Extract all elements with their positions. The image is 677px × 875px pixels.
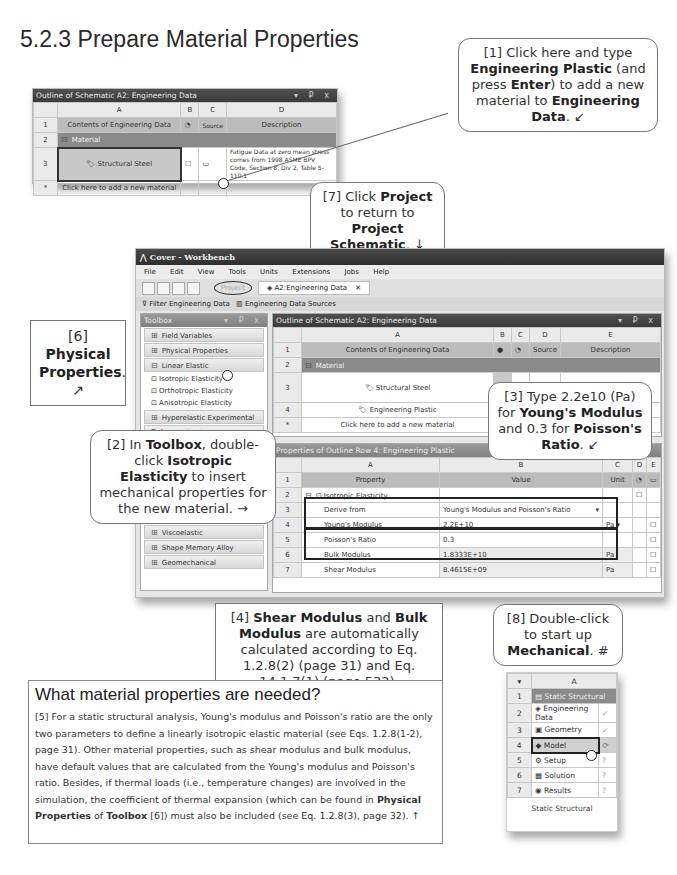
menu-units[interactable]: Units	[260, 268, 278, 276]
e-header-icon: ▭	[647, 473, 661, 488]
menu-bar: File Edit View Tools Units Extensions Jo…	[136, 265, 664, 279]
col-header	[34, 103, 58, 118]
status-icon: ⟳	[599, 738, 617, 753]
row-number: 1	[34, 118, 58, 133]
panel-controls[interactable]: ▾ ₽ x	[618, 314, 657, 327]
top-outline-table: A B C D 1 Contents of Engineering Data ◔…	[33, 102, 337, 196]
toolbox-group-physical-properties[interactable]: ⊞Physical Properties	[144, 343, 264, 357]
save-as-icon[interactable]	[187, 282, 200, 295]
material-icon: 🏷	[86, 160, 97, 168]
panel-controls[interactable]: ▾ ₽ x	[294, 89, 333, 102]
static-structural-system: ▾A 1▤ Static Structural 2◈ Engineering D…	[506, 672, 618, 832]
note-body: [5] For a static structural analysis, Yo…	[35, 709, 436, 825]
top-outline-title: Outline of Schematic A2: Engineering Dat…	[36, 91, 197, 100]
checkbox[interactable]: ☐	[647, 563, 661, 578]
cell-engineering-data[interactable]: ◈ Engineering Data	[532, 704, 599, 723]
property-header: Property	[302, 473, 440, 488]
toolbox-group-viscoelastic[interactable]: ⊞Viscoelastic	[144, 525, 264, 539]
toolbox-group-linear-elastic[interactable]: ⊟Linear Elastic	[144, 358, 264, 372]
add-material-input[interactable]: Click here to add a new material	[58, 181, 181, 196]
cell-geometry[interactable]: ▣ Geometry	[532, 723, 599, 738]
tab-project[interactable]: Project	[214, 281, 252, 295]
description-header: Description	[227, 118, 337, 133]
checkbox[interactable]: ☐	[633, 488, 647, 503]
section-title: 5.2.3 Prepare Material Properties	[20, 26, 359, 53]
system-menu-icon[interactable]: ▾	[508, 674, 532, 689]
value-header: Value	[440, 473, 603, 488]
menu-edit[interactable]: Edit	[170, 268, 184, 276]
source-header: Source	[529, 343, 560, 358]
menu-view[interactable]: View	[198, 268, 215, 276]
toolbox-group-field-variables[interactable]: ⊞Field Variables	[144, 328, 264, 342]
system-title[interactable]: ▤ Static Structural	[532, 689, 617, 704]
sources-icon: ▥	[236, 300, 245, 308]
system-caption[interactable]: Static Structural	[507, 804, 617, 813]
toolbox-item-anisotropic-elasticity[interactable]: ⊡ Anisotropic Elasticity	[141, 397, 267, 409]
contents-header: Contents of Engineering Data	[302, 343, 494, 358]
save-icon[interactable]	[172, 282, 185, 295]
unit-header: Unit	[603, 473, 633, 488]
model-icon: ◆	[536, 741, 544, 750]
cell-results[interactable]: ◉ Results	[532, 783, 599, 798]
property-label: Shear Modulus	[302, 563, 440, 578]
toolbox-group-geomechanical[interactable]: ⊞Geomechanical	[144, 555, 264, 569]
checkbox[interactable]: ☐	[181, 148, 199, 181]
material-group[interactable]: ⊟Material	[302, 358, 661, 373]
checkbox[interactable]: ☐	[647, 533, 661, 548]
col-header: C	[199, 103, 227, 118]
shear-modulus-value: 8.4615E+09	[440, 563, 603, 578]
row-number: 3	[34, 148, 58, 181]
filter-engineering-data-button[interactable]: ⊽ Filter Engineering Data	[142, 300, 230, 308]
checkbox[interactable]: ☐	[647, 518, 661, 533]
add-material-input[interactable]: Click here to add a new material	[302, 418, 494, 433]
description-header: Description	[561, 343, 661, 358]
close-tab-icon[interactable]: ✕	[355, 284, 361, 292]
b-header-icon: ●	[493, 343, 511, 358]
click-marker	[586, 750, 597, 761]
callout-8: [8] Double-click to start up Mechanical.…	[493, 604, 623, 666]
material-group[interactable]: ⊟Material	[58, 133, 337, 148]
top-outline-title-bar: Outline of Schematic A2: Engineering Dat…	[33, 89, 337, 102]
top-outline-panel: Outline of Schematic A2: Engineering Dat…	[32, 88, 338, 184]
cell-solution[interactable]: ▦ Solution	[532, 768, 599, 783]
new-icon[interactable]	[142, 282, 155, 295]
toolbox-group-hyperelastic-experimental-data[interactable]: ⊞Hyperelastic Experimental Data	[144, 410, 264, 424]
elasticity-icon: ⊡	[151, 399, 159, 407]
b-header: ◔	[181, 118, 199, 133]
row-number: 2	[34, 133, 58, 148]
menu-extensions[interactable]: Extensions	[292, 268, 330, 276]
col-header: A	[58, 103, 181, 118]
callout-1: [1] Click here and type Engineering Plas…	[458, 38, 658, 132]
structural-steel-row[interactable]: 🏷 Structural Steel	[302, 373, 494, 403]
highlight-calculated-rows	[304, 528, 618, 560]
status-icon: ?	[599, 783, 617, 798]
engineering-data-icon: ◈	[535, 704, 543, 713]
results-icon: ◉	[535, 786, 544, 795]
engineering-plastic-row[interactable]: 🏷 Engineering Plastic	[302, 403, 494, 418]
tab-toolbar: Project ◈ A2:Engineering Data ✕	[136, 279, 664, 297]
open-icon[interactable]	[157, 282, 170, 295]
checkbox[interactable]: ☐	[647, 548, 661, 563]
structural-steel-cell[interactable]: 🏷 Structural Steel	[58, 148, 181, 181]
toolbox-item-isotropic-elasticity[interactable]: ⊡ Isotropic Elasticity	[141, 373, 267, 385]
menu-help[interactable]: Help	[373, 268, 389, 276]
highlight-input-rows	[304, 497, 618, 529]
tab-engineering-data[interactable]: ◈ A2:Engineering Data ✕	[258, 281, 370, 295]
outline-title-bar: Outline of Schematic A2: Engineering Dat…	[273, 314, 661, 327]
source-header: Source	[199, 118, 227, 133]
contents-header: Contents of Engineering Data	[58, 118, 181, 133]
ansys-logo-icon: ⋀	[140, 252, 150, 262]
toolbox-title-bar: Toolbox▾ ₽ x	[141, 314, 267, 327]
source-icon: ▭	[199, 148, 227, 181]
toolbox-item-orthotropic-elasticity[interactable]: ⊡ Orthotropic Elasticity	[141, 385, 267, 397]
material-icon: 🏷	[365, 384, 376, 392]
callout-2: [2] In Toolbox, double-click Isotropic E…	[90, 430, 276, 524]
callout-3: [3] Type 2.2e10 (Pa) for Young's Modulus…	[488, 382, 652, 460]
material-icon: 🏷	[358, 406, 369, 414]
menu-file[interactable]: File	[144, 268, 156, 276]
panel-controls[interactable]: ▾ ₽ x	[224, 314, 263, 327]
engineering-data-sources-button[interactable]: ▥ Engineering Data Sources	[236, 300, 336, 308]
menu-tools[interactable]: Tools	[229, 268, 246, 276]
menu-jobs[interactable]: Jobs	[344, 268, 358, 276]
toolbox-group-shape-memory-alloy[interactable]: ⊞Shape Memory Alloy	[144, 540, 264, 554]
